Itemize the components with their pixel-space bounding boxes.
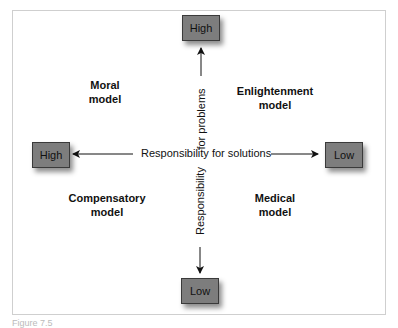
quadrant-compensatory-model: Compensatory model <box>62 191 152 219</box>
quadrant-medical-model: Medical model <box>240 191 310 219</box>
quadrant-enlightenment-model: Enlightenment model <box>230 84 320 112</box>
quadrant-title: Compensatory <box>62 191 152 205</box>
figure-caption: Figure 7.5 <box>12 318 53 328</box>
quadrant-title: Enlightenment <box>230 84 320 98</box>
quadrant-subtitle: model <box>240 205 310 219</box>
quadrant-moral-model: Moral model <box>70 78 140 106</box>
left-high-box: High <box>32 142 70 168</box>
quadrant-subtitle: model <box>70 92 140 106</box>
top-high-box: High <box>182 15 220 41</box>
bottom-low-box: Low <box>181 278 219 304</box>
quadrant-subtitle: model <box>62 205 152 219</box>
vertical-axis-label-bottom: Responsibility <box>194 161 206 241</box>
vertical-axis-label-top: for problems <box>195 85 207 153</box>
quadrant-title: Moral <box>70 78 140 92</box>
right-low-box: Low <box>325 142 363 168</box>
quadrant-subtitle: model <box>230 98 320 112</box>
quadrant-title: Medical <box>240 191 310 205</box>
